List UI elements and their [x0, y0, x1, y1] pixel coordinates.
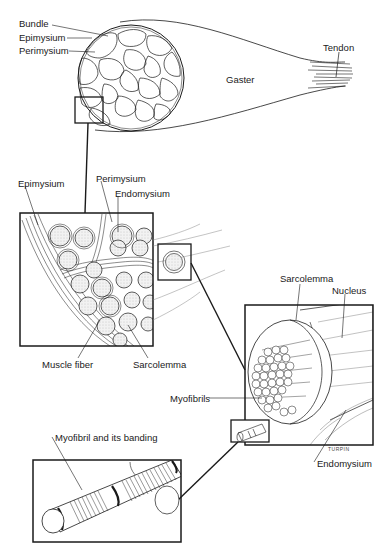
label-sarcolemma-detail: Sarcolemma	[133, 359, 186, 370]
label-perimysium-top: Perimysium	[19, 45, 69, 56]
muscle-cross-section	[75, 25, 184, 213]
label-endomysium-detail: Endomysium	[115, 188, 170, 199]
label-bundle: Bundle	[19, 18, 49, 29]
label-endomysium-fiber: Endomysium	[317, 458, 372, 469]
label-perimysium-detail: Perimysium	[96, 173, 146, 184]
label-sarcolemma-fiber: Sarcolemma	[280, 273, 333, 284]
label-myofibril-banding: Myofibril and its banding	[55, 432, 157, 443]
label-epimysium-top: Epimysium	[19, 32, 65, 43]
label-myofibrils: Myofibrils	[170, 393, 210, 404]
label-epimysium-detail: Epimysium	[18, 178, 64, 189]
label-muscle-fiber: Muscle fiber	[42, 359, 93, 370]
label-nucleus: Nucleus	[332, 285, 366, 296]
label-gaster: Gaster	[226, 74, 255, 85]
artist-signature: TURPIN	[328, 446, 350, 452]
myofibril-detail	[33, 437, 182, 542]
bundle-detail	[20, 213, 245, 370]
label-tendon: Tendon	[323, 42, 354, 53]
